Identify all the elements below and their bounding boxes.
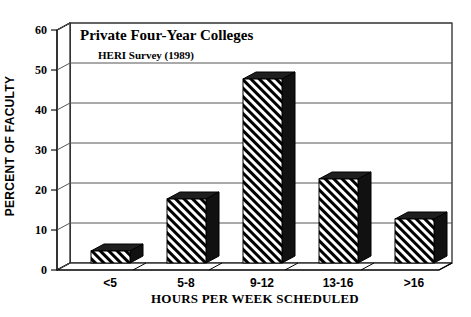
bar-group-13-16[interactable] (319, 172, 371, 263)
x-axis-title: HOURS PER WEEK SCHEDULED (151, 291, 359, 306)
x-tick-label-9-12: 9-12 (250, 276, 274, 290)
x-tick-label-gt16: >16 (404, 276, 425, 290)
y-tick-label-0: 0 (41, 263, 47, 277)
bar-front-face-9-12[interactable] (243, 79, 282, 263)
y-tick-label-50: 50 (35, 63, 47, 77)
bar-side-face-5-8 (206, 192, 219, 263)
bar-front-face-gt16[interactable] (395, 219, 434, 263)
y-tick-label-10: 10 (35, 223, 47, 237)
bar-group-gt16[interactable] (395, 212, 447, 263)
bar-front-face-5-8[interactable] (167, 199, 206, 263)
x-tick-label-5-8: 5-8 (177, 276, 195, 290)
bar-front-face-13-16[interactable] (319, 179, 358, 263)
chart-container: 0 10 20 30 40 50 60 PERCENT OF FACULTY (0, 0, 471, 317)
y-tick-label-20: 20 (35, 183, 47, 197)
bar-group-9-12[interactable] (243, 72, 295, 263)
bar-group-lt5[interactable] (91, 244, 143, 263)
x-tick-label-lt5: <5 (103, 276, 117, 290)
bar-side-face-9-12 (282, 72, 295, 263)
bar-group-5-8[interactable] (167, 192, 219, 263)
y-tick-label-40: 40 (35, 103, 47, 117)
y-tick-label-30: 30 (35, 143, 47, 157)
bar-front-face-lt5[interactable] (91, 251, 130, 263)
bar-side-face-13-16 (358, 172, 371, 263)
bar-side-face-gt16 (434, 212, 447, 263)
chart-title: Private Four-Year Colleges (80, 27, 253, 43)
y-tick-label-60: 60 (35, 23, 47, 37)
bar-chart: 0 10 20 30 40 50 60 PERCENT OF FACULTY (0, 0, 471, 317)
y-axis-title: PERCENT OF FACULTY (3, 76, 17, 217)
x-tick-label-13-16: 13-16 (323, 276, 354, 290)
chart-subtitle: HERI Survey (1989) (98, 49, 194, 62)
floor (57, 263, 452, 270)
